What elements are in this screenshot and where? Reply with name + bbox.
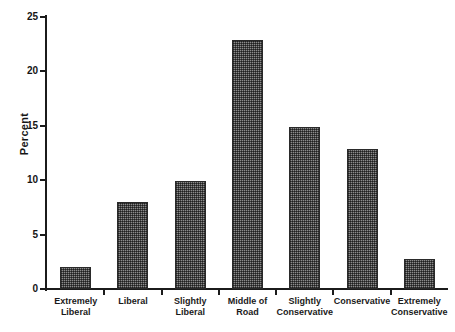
x-axis-label: Conservative (329, 296, 394, 307)
y-tick-mark (40, 70, 46, 72)
x-axis-label: Liberal (100, 296, 165, 307)
x-tick-mark (103, 290, 105, 295)
x-axis-label-line: Conservative (329, 296, 394, 307)
y-tick-label: 0 (0, 284, 38, 294)
y-tick-mark (40, 125, 46, 127)
plot-area (47, 17, 448, 289)
y-tick-label: 10 (0, 175, 38, 185)
y-tick-label: 15 (0, 121, 38, 131)
x-axis-label-line: Extremely (387, 296, 452, 307)
y-tick-mark (40, 234, 46, 236)
x-axis-label-line: Conservative (272, 307, 337, 318)
bar (289, 127, 320, 289)
x-axis-label: Middle ofRoad (215, 296, 280, 318)
y-axis-title: Percent (18, 94, 30, 174)
x-tick-mark (390, 290, 392, 295)
x-axis-label: SlightlyLiberal (158, 296, 223, 318)
x-axis-label: ExtremelyLiberal (43, 296, 108, 318)
x-axis-label-line: Road (215, 307, 280, 318)
y-tick-mark (40, 16, 46, 18)
x-axis-label-line: Liberal (100, 296, 165, 307)
x-axis-label-line: Extremely (43, 296, 108, 307)
x-axis-label-line: Liberal (43, 307, 108, 318)
x-tick-mark (275, 290, 277, 295)
bar (347, 149, 378, 289)
bar (232, 40, 263, 289)
x-axis-label: SlightlyConservative (272, 296, 337, 318)
x-tick-mark (161, 290, 163, 295)
bar-chart: Percent 0510152025 ExtremelyLiberalLiber… (0, 0, 455, 332)
x-axis-label-line: Slightly (272, 296, 337, 307)
y-tick-label: 20 (0, 66, 38, 76)
bar (60, 267, 91, 289)
bar (117, 202, 148, 289)
figure-caption (18, 322, 438, 332)
x-tick-mark (218, 290, 220, 295)
x-tick-mark (332, 290, 334, 295)
bar (404, 259, 435, 289)
y-tick-mark (40, 179, 46, 181)
y-tick-label: 25 (0, 12, 38, 22)
x-axis-label-line: Middle of (215, 296, 280, 307)
y-tick-mark (40, 288, 46, 290)
x-axis-label: ExtremelyConservative (387, 296, 452, 318)
x-axis-label-line: Liberal (158, 307, 223, 318)
bar (175, 181, 206, 289)
x-axis-label-line: Conservative (387, 307, 452, 318)
y-tick-label: 5 (0, 230, 38, 240)
x-axis-label-line: Slightly (158, 296, 223, 307)
